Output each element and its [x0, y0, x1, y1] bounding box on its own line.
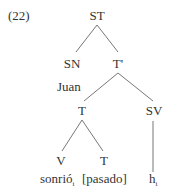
branch-tbar-sv — [118, 73, 153, 101]
node-t-head: T — [100, 154, 108, 167]
word-juan: Juan — [57, 80, 81, 93]
branch-t-thead — [82, 120, 103, 151]
tree-branches — [0, 0, 169, 194]
node-t: T — [78, 104, 86, 117]
word-sonrio: sonriói — [40, 172, 74, 191]
index-i: i — [73, 180, 75, 188]
node-sv: SV — [146, 104, 163, 117]
node-v: V — [56, 154, 65, 167]
trace-index: i — [156, 180, 158, 188]
node-tbar: T' — [113, 57, 123, 70]
branch-tbar-t — [84, 73, 118, 101]
branch-st-tbar — [97, 25, 118, 52]
trace-h: hi — [149, 172, 157, 191]
node-sn: SN — [64, 57, 81, 70]
node-st: ST — [89, 9, 104, 22]
branch-st-sn — [76, 25, 97, 52]
word-pasado: [pasado] — [82, 172, 127, 185]
word-sonrio-text: sonrió — [40, 171, 73, 186]
branch-t-v — [62, 120, 82, 151]
